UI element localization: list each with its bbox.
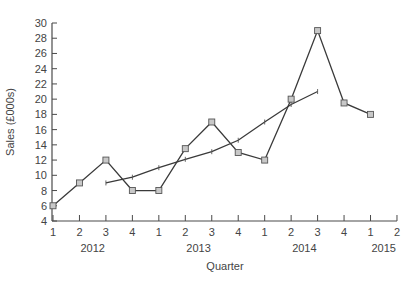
y-tick-label: 6 [41, 200, 47, 212]
data-point [156, 188, 162, 194]
y-tick-label: 20 [35, 93, 47, 105]
series-sales [50, 28, 374, 209]
y-tick-label: 18 [35, 108, 47, 120]
year-label: 2013 [186, 242, 210, 254]
y-tick-label: 8 [41, 185, 47, 197]
x-tick-label: 1 [262, 226, 268, 238]
x-tick-label: 4 [235, 226, 241, 238]
y-tick-label: 16 [35, 124, 47, 136]
series-moving-average [106, 89, 318, 185]
data-point [288, 96, 294, 102]
x-tick-label: 1 [156, 226, 162, 238]
x-tick-label: 2 [182, 226, 188, 238]
data-point [209, 119, 215, 125]
data-point [129, 188, 135, 194]
y-tick-label: 4 [41, 215, 47, 227]
data-point [182, 146, 188, 152]
y-tick-label: 12 [35, 154, 47, 166]
y-axis: 4681012141618202224262830 [35, 17, 57, 227]
year-label: 2014 [292, 242, 316, 254]
x-tick-label: 4 [341, 226, 347, 238]
year-label: 2012 [80, 242, 104, 254]
y-tick-label: 10 [35, 169, 47, 181]
x-tick-label: 3 [103, 226, 109, 238]
data-point [235, 149, 241, 155]
data-point [50, 203, 56, 209]
y-tick-label: 30 [35, 17, 47, 29]
y-tick-label: 28 [35, 32, 47, 44]
x-axis-title: Quarter [206, 260, 244, 272]
data-point [76, 180, 82, 186]
line-chart: 4681012141618202224262830 12341234123412… [0, 0, 414, 287]
x-tick-label: 1 [367, 226, 373, 238]
year-label: 2015 [372, 242, 396, 254]
data-point [315, 28, 321, 34]
x-tick-label: 3 [315, 226, 321, 238]
x-tick-label: 3 [209, 226, 215, 238]
x-tick-label: 1 [50, 226, 56, 238]
series-layer [50, 28, 374, 209]
x-tick-label: 2 [288, 226, 294, 238]
x-tick-label: 2 [394, 226, 400, 238]
data-point [341, 100, 347, 106]
y-tick-label: 22 [35, 78, 47, 90]
data-point [368, 111, 374, 117]
y-tick-label: 14 [35, 139, 47, 151]
y-tick-label: 26 [35, 47, 47, 59]
x-tick-label: 2 [76, 226, 82, 238]
y-axis-title: Sales (£000s) [4, 88, 16, 156]
data-point [103, 157, 109, 163]
y-tick-label: 24 [35, 63, 47, 75]
x-axis: 123412341234122012201320142015 [50, 215, 400, 254]
data-point [262, 157, 268, 163]
x-tick-label: 4 [129, 226, 135, 238]
